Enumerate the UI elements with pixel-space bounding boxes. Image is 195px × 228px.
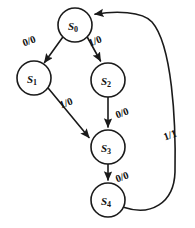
- edge-s0-s1: [45, 38, 63, 63]
- state-node-s4[interactable]: S4: [91, 183, 125, 217]
- state-node-s3[interactable]: S3: [91, 130, 125, 164]
- edge-label-s0-s2: 1/0: [87, 34, 103, 49]
- edge-label-s1-s3: 1/0: [58, 96, 74, 111]
- state-node-s0[interactable]: S0: [58, 8, 92, 42]
- state-diagram-canvas: S0 S1 S2 S3 S4 0/0 1/0 1/0 0/0 0/0 1/1: [0, 0, 195, 228]
- state-diagram-svg: S0 S1 S2 S3 S4 0/0 1/0 1/0 0/0 0/0 1/1: [0, 0, 195, 228]
- edge-s4-s0: [95, 12, 175, 210]
- edge-label-s3-s4: 0/0: [114, 170, 130, 185]
- edge-label-s2-s3: 0/0: [114, 106, 130, 121]
- edge-label-s0-s1: 0/0: [21, 34, 37, 49]
- state-node-s2[interactable]: S2: [91, 63, 125, 97]
- state-node-s1[interactable]: S1: [17, 61, 51, 95]
